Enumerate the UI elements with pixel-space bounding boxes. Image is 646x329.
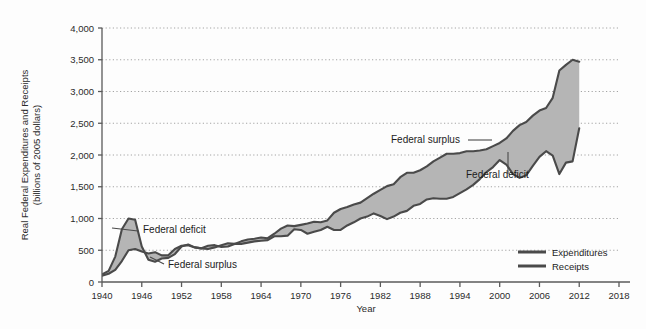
annotation-deficit-2003: Federal deficit [466, 169, 529, 180]
svg-text:1970: 1970 [290, 290, 311, 301]
svg-text:2006: 2006 [529, 290, 550, 301]
svg-text:1958: 1958 [211, 290, 232, 301]
svg-text:1976: 1976 [330, 290, 351, 301]
svg-text:1988: 1988 [410, 290, 431, 301]
y-axis-title-line2: (billions of 2005 dollars) [31, 105, 42, 205]
svg-text:2,000: 2,000 [70, 150, 94, 161]
svg-text:500: 500 [78, 245, 94, 256]
x-axis-ticks [102, 282, 619, 287]
svg-text:3,500: 3,500 [70, 54, 94, 65]
x-axis-title: Year [356, 303, 375, 314]
svg-text:0: 0 [89, 277, 94, 288]
svg-text:4,000: 4,000 [70, 23, 94, 34]
annotation-deficit-1940s: Federal deficit [143, 224, 206, 235]
svg-text:2,500: 2,500 [70, 118, 94, 129]
legend-label-receipts: Receipts [552, 261, 589, 272]
annotation-surplus-1950s: Federal surplus [168, 259, 237, 270]
svg-text:1,500: 1,500 [70, 181, 94, 192]
svg-text:2012: 2012 [569, 290, 590, 301]
legend-label-expenditures: Expenditures [552, 247, 608, 258]
svg-text:2018: 2018 [608, 290, 629, 301]
y-axis-title-line1: Real Federal Expenditures and Receipts [19, 69, 30, 240]
svg-text:1994: 1994 [449, 290, 470, 301]
svg-text:2000: 2000 [489, 290, 510, 301]
svg-text:1964: 1964 [251, 290, 272, 301]
svg-text:1982: 1982 [370, 290, 391, 301]
y-axis-tick-labels: 05001,0001,5002,0002,5003,0003,5004,000 [70, 23, 94, 288]
annotation-surplus-2000: Federal surplus [391, 134, 460, 145]
svg-text:1946: 1946 [131, 290, 152, 301]
chart-figure: 05001,0001,5002,0002,5003,0003,5004,000 … [0, 0, 646, 329]
svg-text:1,000: 1,000 [70, 213, 94, 224]
x-axis-tick-labels: 1940194619521958196419701976198219881994… [91, 290, 629, 301]
svg-text:3,000: 3,000 [70, 86, 94, 97]
chart-canvas: 05001,0001,5002,0002,5003,0003,5004,000 … [0, 0, 646, 329]
svg-text:1940: 1940 [91, 290, 112, 301]
svg-text:1952: 1952 [171, 290, 192, 301]
